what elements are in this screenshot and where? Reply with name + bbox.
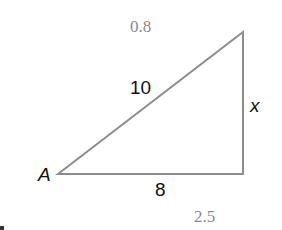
vertical-side-label: x — [250, 96, 260, 115]
annotation-top: 0.8 — [130, 18, 151, 35]
right-triangle — [58, 32, 243, 174]
base-label: 8 — [155, 180, 166, 199]
corner-mark — [0, 226, 4, 230]
annotation-bottom: 2.5 — [194, 208, 215, 225]
triangle-diagram: 0.8 10 x A 8 2.5 — [0, 0, 282, 230]
vertex-a-label: A — [38, 165, 51, 184]
hypotenuse-label: 10 — [130, 78, 151, 97]
